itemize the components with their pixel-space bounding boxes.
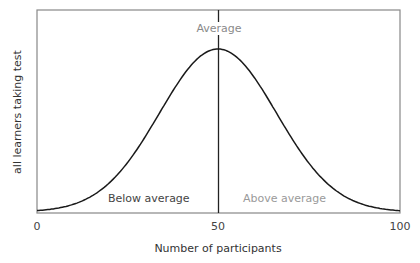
x-tick-50: 50 [211, 220, 225, 233]
above-average-label: Above average [243, 192, 326, 205]
y-axis-label: all learners taking test [11, 49, 24, 173]
average-label: Average [196, 22, 241, 35]
x-tick-100: 100 [390, 220, 411, 233]
x-axis-label: Number of participants [154, 242, 282, 255]
below-average-label: Below average [108, 192, 190, 205]
bell-curve-chart: Average Below average Above average 0 50… [0, 0, 420, 263]
x-tick-0: 0 [34, 220, 41, 233]
